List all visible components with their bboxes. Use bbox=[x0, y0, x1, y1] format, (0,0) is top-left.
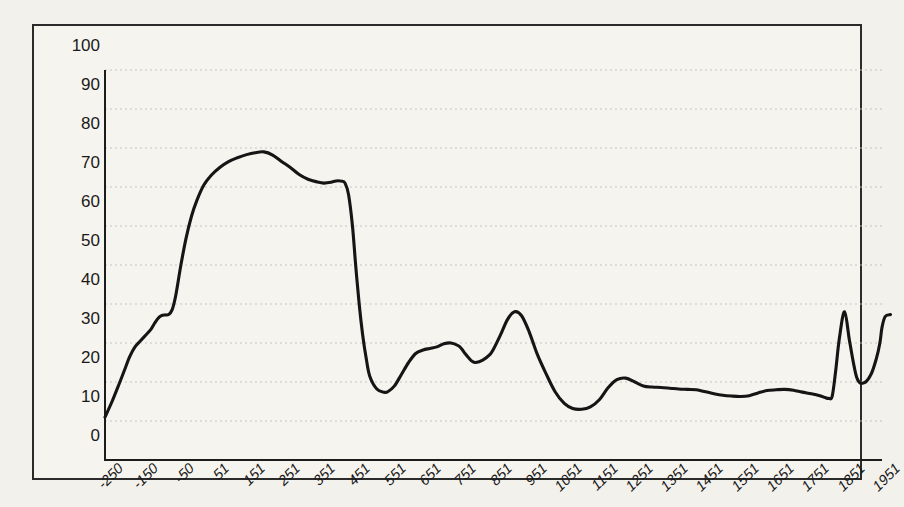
x-tick-label-1951: 1951 bbox=[869, 460, 903, 494]
x-tick-label-1551: 1551 bbox=[728, 460, 762, 494]
x-tick-label-351: 351 bbox=[310, 460, 338, 488]
x-tick-label-551: 551 bbox=[381, 460, 409, 488]
x-tick-text: 951 bbox=[522, 460, 550, 489]
x-tick-label-1451: 1451 bbox=[693, 460, 727, 494]
x-tick-label-1851: 1851 bbox=[834, 460, 868, 494]
plot-area bbox=[105, 70, 882, 460]
y-tick-label-20: 20 bbox=[60, 349, 100, 366]
x-tick-text: 351 bbox=[310, 460, 338, 489]
y-tick-label-0: 0 bbox=[60, 427, 100, 444]
x-tick-label-251: 251 bbox=[275, 460, 303, 488]
x-axis-tick-labels: -250-150-5051151251351451551651751851951… bbox=[105, 460, 895, 507]
y-tick-label-100: 100 bbox=[60, 37, 100, 54]
y-tick-label-40: 40 bbox=[60, 271, 100, 288]
figure-frame: 0102030405060708090100 -250-150-50511512… bbox=[32, 24, 862, 480]
x-tick-text: 1851 bbox=[834, 460, 868, 495]
data-line-series-1 bbox=[105, 70, 882, 460]
x-tick-text: 1351 bbox=[658, 460, 692, 495]
y-tick-label-90: 90 bbox=[60, 76, 100, 93]
x-tick-text: 151 bbox=[240, 460, 268, 489]
x-tick-label-751: 751 bbox=[451, 460, 479, 488]
x-tick-label--150: -150 bbox=[130, 460, 162, 492]
x-tick-text: -150 bbox=[130, 460, 161, 492]
x-tick-label-1151: 1151 bbox=[588, 460, 621, 493]
x-tick-label-1651: 1651 bbox=[763, 460, 797, 494]
x-tick-label-1351: 1351 bbox=[657, 460, 691, 494]
x-tick-label-951: 951 bbox=[522, 460, 550, 488]
x-tick-text: 451 bbox=[346, 460, 374, 489]
x-tick-label-451: 451 bbox=[345, 460, 373, 488]
y-axis-tick-labels: 0102030405060708090100 bbox=[58, 26, 100, 482]
x-tick-text: 1951 bbox=[869, 460, 903, 495]
x-tick-label-1051: 1051 bbox=[551, 460, 585, 494]
y-tick-label-10: 10 bbox=[60, 388, 100, 405]
x-tick-label-651: 651 bbox=[416, 460, 444, 488]
y-tick-label-80: 80 bbox=[60, 115, 100, 132]
x-tick-text: 251 bbox=[275, 460, 303, 489]
x-tick-text: 51 bbox=[210, 460, 232, 483]
x-tick-text: 551 bbox=[381, 460, 409, 489]
x-tick-text: 851 bbox=[487, 460, 515, 489]
y-tick-label-30: 30 bbox=[60, 310, 100, 327]
x-tick-text: 1151 bbox=[588, 460, 621, 494]
data-curve-path bbox=[105, 152, 890, 417]
x-tick-text: 1751 bbox=[799, 460, 833, 495]
x-tick-label--50: -50 bbox=[171, 460, 197, 486]
x-tick-label-851: 851 bbox=[487, 460, 515, 488]
x-tick-label-1251: 1251 bbox=[622, 460, 656, 494]
x-tick-text: 651 bbox=[416, 460, 444, 489]
x-tick-label-1751: 1751 bbox=[799, 460, 833, 494]
x-tick-label-51: 51 bbox=[210, 460, 233, 483]
y-tick-label-60: 60 bbox=[60, 193, 100, 210]
x-tick-text: 1551 bbox=[728, 460, 762, 495]
x-tick-text: 1051 bbox=[552, 460, 586, 495]
x-tick-text: 1451 bbox=[693, 460, 727, 495]
x-tick-text: 751 bbox=[451, 460, 479, 489]
y-tick-label-70: 70 bbox=[60, 154, 100, 171]
y-tick-label-50: 50 bbox=[60, 232, 100, 249]
x-tick-label-151: 151 bbox=[239, 460, 267, 488]
x-tick-text: -50 bbox=[171, 460, 197, 487]
x-tick-text: 1251 bbox=[622, 460, 656, 495]
x-tick-text: 1651 bbox=[763, 460, 797, 495]
